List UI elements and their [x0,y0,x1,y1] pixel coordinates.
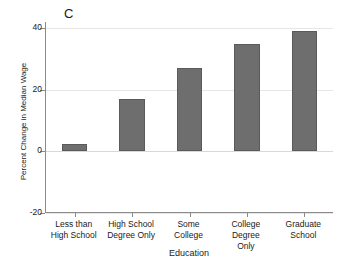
bar [177,68,202,151]
x-tick-label-line: School [275,230,332,241]
y-axis-title: Percent Change in Median Wage [19,42,28,202]
x-tick-mark [75,213,76,217]
x-tick-mark [132,213,133,217]
bar-series [46,22,333,213]
x-tick-label-line: Some [160,219,217,230]
y-tick-label: 20 [33,84,42,94]
x-axis-title: Education [45,248,333,258]
x-tick-label-line: Less than [45,219,102,230]
x-tick-mark [304,213,305,217]
x-tick-label: High SchoolDegree Only [102,219,159,241]
x-tick-label-line: College [160,230,217,241]
bar [119,99,144,151]
x-tick-label: Less thanHigh School [45,219,102,241]
x-tick-label-line: College Degree [217,219,274,241]
bar [234,44,259,152]
plot-area: 40200-20 [45,22,333,213]
panel-label: C [64,6,74,21]
x-axis-tick-labels: Less thanHigh SchoolHigh SchoolDegree On… [45,219,333,249]
bar-chart-figure: C Percent Change in Median Wage 40200-20… [0,0,340,266]
x-tick-label-line: High School [45,230,102,241]
x-tick-mark [247,213,248,217]
bar [62,144,87,152]
y-tick-label: -20 [30,207,42,217]
x-tick-mark [190,213,191,217]
x-tick-label-line: Graduate [275,219,332,230]
x-tick-label-line: High School [102,219,159,230]
x-tick-label: GraduateSchool [275,219,332,241]
bar [292,31,317,151]
x-tick-label: SomeCollege [160,219,217,241]
y-tick-label: 0 [37,145,42,155]
y-tick-label: 40 [33,22,42,32]
x-tick-label-line: Degree Only [102,230,159,241]
